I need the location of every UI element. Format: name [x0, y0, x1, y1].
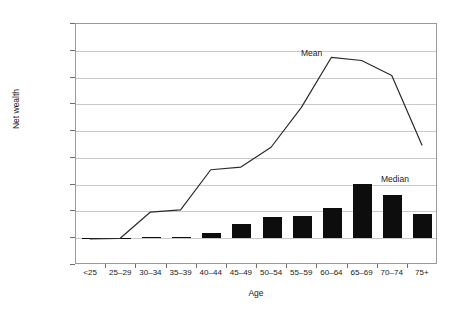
x-axis-tick-label: 30–34 — [135, 268, 165, 277]
plot-area — [75, 23, 437, 264]
gridline — [76, 104, 436, 105]
x-axis-tick-label: 35–39 — [166, 268, 196, 277]
bar — [413, 214, 432, 238]
bar — [82, 238, 101, 239]
bar — [263, 217, 282, 238]
gridline — [76, 185, 436, 186]
x-axis-tick-label: <25 — [75, 268, 105, 277]
series-label-mean: Mean — [301, 48, 322, 58]
bar — [112, 238, 131, 239]
gridline — [76, 158, 436, 159]
x-axis-tick-label: 40–44 — [196, 268, 226, 277]
x-axis-tick-label: 45–49 — [226, 268, 256, 277]
x-axis-tick-label: 75+ — [407, 268, 437, 277]
x-axis-tick-label: 25–29 — [105, 268, 135, 277]
y-axis-tick-mark — [70, 264, 75, 265]
bar — [383, 195, 402, 238]
gridline — [76, 211, 436, 212]
x-axis-title: Age — [75, 288, 437, 298]
gridline — [76, 131, 436, 132]
bar — [293, 216, 312, 238]
bar — [142, 237, 161, 238]
x-axis-tick-label: 60–64 — [316, 268, 346, 277]
x-axis-tick-label: 70–74 — [377, 268, 407, 277]
x-axis-tick-label: 55–59 — [286, 268, 316, 277]
series-label-median: Median — [381, 174, 409, 184]
bar — [353, 184, 372, 238]
gridline — [76, 51, 436, 52]
x-axis-tick-label: 65–69 — [347, 268, 377, 277]
bar — [202, 233, 221, 238]
gridline — [76, 78, 436, 79]
bar — [323, 208, 342, 239]
bar — [232, 224, 251, 238]
y-axis-title: Net wealth — [9, 61, 23, 157]
x-axis-tick-label: 50–54 — [256, 268, 286, 277]
net-wealth-chart: Net wealth £40,000£35,000£30,000£25,000£… — [0, 0, 450, 313]
bar — [172, 237, 191, 239]
